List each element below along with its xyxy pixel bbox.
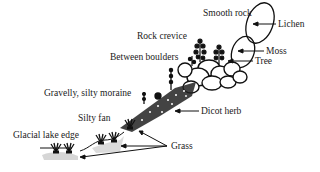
succession-illustration [0,0,320,172]
silty-fan-fill [92,136,124,153]
label-dicot-herb: Dicot herb [201,107,241,117]
label-smooth-rock: Smooth rock [203,9,252,19]
label-glacial-lake-edge: Glacial lake edge [13,131,79,141]
label-between-boulders: Between boulders [110,53,178,63]
label-tree: Tree [255,57,272,67]
lake-edge-fill [42,152,78,160]
label-grass: Grass [171,142,193,152]
label-rock-crevice: Rock crevice [137,32,187,42]
label-silty-fan: Silty fan [78,114,110,124]
label-gravelly-silty-moraine: Gravelly, silty moraine [44,89,131,99]
label-lichen: Lichen [278,20,304,30]
